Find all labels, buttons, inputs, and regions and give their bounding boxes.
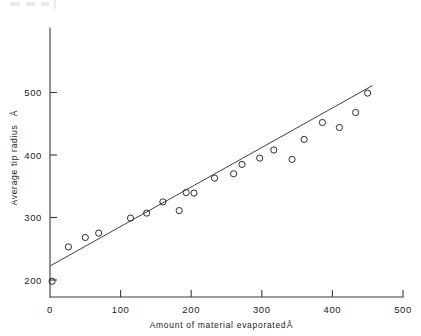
data-point [191,190,197,196]
data-point [365,90,371,96]
data-point [239,161,245,167]
x-axis [50,290,403,297]
x-axis-unit-text: Å [287,320,293,330]
data-point [271,147,277,153]
data-point [289,156,295,162]
x-tick-label-500: 500 [394,304,412,315]
x-tick-label-300: 300 [253,304,271,315]
linear-fit-line [50,86,373,267]
data-point [353,109,359,115]
y-tick-label-400: 400 [24,150,42,161]
y-tick-label-500: 500 [24,87,42,98]
x-axis-title-text: Amount of material evaporated [150,320,287,330]
scatter-plot-figure: 500 400 300 200 0 100 200 300 400 500 Am… [0,0,421,336]
x-tick-label-100: 100 [112,304,130,315]
data-point [127,215,133,221]
data-point-group [49,90,371,284]
data-point [319,119,325,125]
data-point [65,244,71,250]
y-tick-label-300: 300 [24,212,42,223]
x-tick-label-200: 200 [182,304,200,315]
data-point [176,208,182,214]
x-tick-label-400: 400 [324,304,342,315]
scan-artifact [10,0,56,9]
x-tick-label-0: 0 [47,304,53,315]
x-axis-title: Amount of material evaporated Å [150,320,293,330]
data-point [96,230,102,236]
x-tick-labels: 0 100 200 300 400 500 [47,304,412,315]
data-point [336,124,342,130]
y-axis-title-text: Average tip radius [9,125,19,206]
y-axis-title: Average tip radius Å [9,110,19,206]
data-point [82,234,88,240]
data-point [211,175,217,181]
y-axis [50,28,57,297]
y-tick-label-200: 200 [24,275,42,286]
data-point [231,171,237,177]
y-tick-labels: 500 400 300 200 [24,87,42,286]
y-axis-unit-text: Å [9,110,19,116]
data-point [183,189,189,195]
data-point [257,155,263,161]
data-point [301,136,307,142]
